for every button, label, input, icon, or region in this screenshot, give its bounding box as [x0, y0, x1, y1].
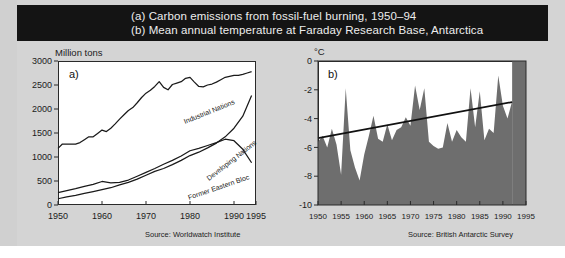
svg-text:1950: 1950 — [309, 212, 327, 221]
title-line-b: (b) Mean annual temperature at Faraday R… — [131, 24, 483, 36]
svg-text:1985: 1985 — [471, 212, 489, 221]
chart-panel-b: °C b) 0-2-4-6-8-101950195519601965197019… — [290, 48, 555, 248]
svg-text:-8: -8 — [304, 171, 312, 181]
svg-text:1990: 1990 — [494, 212, 512, 221]
chart-a-series-label: Former Eastern Bloc — [187, 173, 250, 201]
svg-text:1995: 1995 — [246, 211, 266, 221]
chart-a-svg: 0500100015002000250030001950196019701980… — [17, 48, 285, 248]
svg-text:1975: 1975 — [425, 212, 443, 221]
svg-text:1965: 1965 — [378, 212, 396, 221]
svg-text:-2: -2 — [304, 85, 312, 95]
chart-a-series-label: Industrial Nations — [183, 98, 236, 125]
svg-text:-6: -6 — [304, 143, 312, 153]
svg-text:1990: 1990 — [224, 211, 244, 221]
svg-text:1970: 1970 — [136, 211, 156, 221]
svg-text:1000: 1000 — [32, 152, 52, 162]
svg-text:1980: 1980 — [448, 212, 466, 221]
svg-text:-4: -4 — [304, 114, 312, 124]
svg-text:1960: 1960 — [355, 212, 373, 221]
svg-text:0: 0 — [47, 200, 52, 210]
title-line-a: (a) Carbon emissions from fossil-fuel bu… — [131, 10, 416, 22]
svg-text:2500: 2500 — [32, 80, 52, 90]
chart-b-source: Source: British Antarctic Survey — [408, 230, 513, 239]
svg-text:1955: 1955 — [332, 212, 350, 221]
chart-b-area — [318, 75, 512, 205]
svg-text:3000: 3000 — [32, 56, 52, 66]
svg-text:2000: 2000 — [32, 104, 52, 114]
svg-text:1960: 1960 — [92, 211, 112, 221]
svg-text:500: 500 — [37, 176, 52, 186]
chart-a-source: Source: Worldwatch Institute — [145, 230, 240, 239]
chart-panel-a: Million tons a) 050010001500200025003000… — [17, 48, 285, 248]
svg-text:1970: 1970 — [402, 212, 420, 221]
chart-b-svg: 0-2-4-6-8-101950195519601965197019751980… — [290, 48, 555, 248]
figure-title-bar: (a) Carbon emissions from fossil-fuel bu… — [17, 5, 548, 41]
svg-text:1995: 1995 — [517, 212, 535, 221]
figure-page: (a) Carbon emissions from fossil-fuel bu… — [0, 0, 565, 258]
svg-text:0: 0 — [307, 56, 312, 66]
svg-text:1500: 1500 — [32, 128, 52, 138]
svg-text:-10: -10 — [299, 200, 312, 210]
svg-text:1980: 1980 — [180, 211, 200, 221]
svg-text:1950: 1950 — [48, 211, 68, 221]
